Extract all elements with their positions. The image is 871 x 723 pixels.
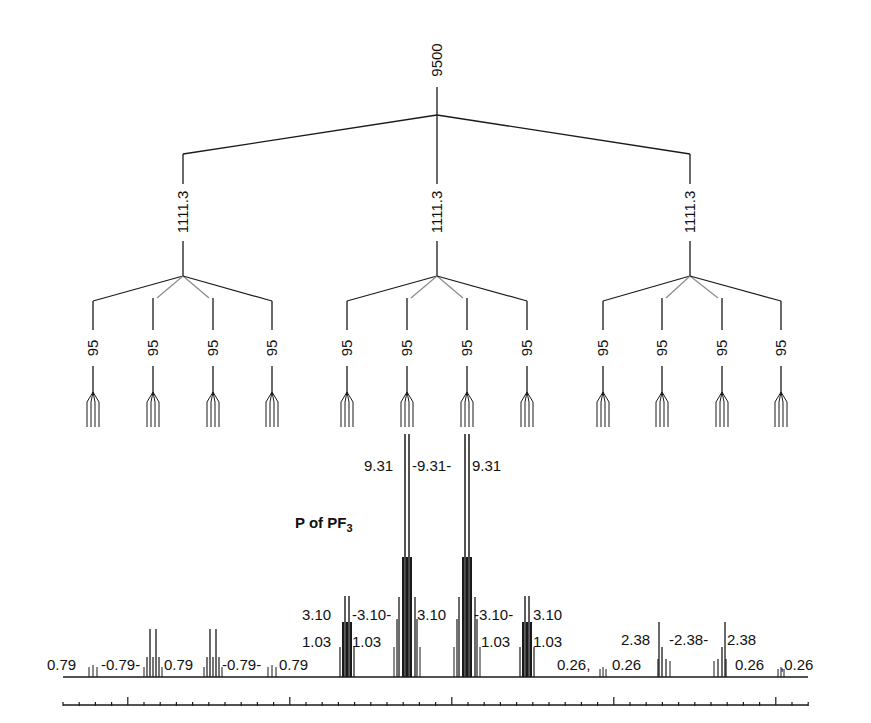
tree-line — [347, 276, 437, 301]
coupling-label-95: 95 — [713, 340, 730, 357]
coupling-value-label: -9.31- — [412, 458, 451, 473]
coupling-value-label: 1.03 — [533, 634, 562, 649]
coupling-value-label: -3.10- — [474, 607, 513, 622]
coupling-value-label: 0.26 — [735, 657, 764, 672]
coupling-value-label: -0.79- — [222, 657, 261, 672]
coupling-value-label: -2.38- — [669, 632, 708, 647]
diagram-title: P of PF3 — [295, 514, 353, 534]
coupling-value-label: 0.79 — [164, 657, 193, 672]
tree-line — [183, 115, 437, 154]
tree-line — [690, 276, 781, 301]
coupling-label-95: 95 — [263, 340, 280, 357]
coupling-label-1111: 1111.3 — [681, 191, 698, 234]
coupling-label-95: 95 — [398, 340, 415, 357]
coupling-label-95: 95 — [458, 340, 475, 357]
coupling-value-label: 0.79 — [279, 657, 308, 672]
coupling-value-label: -3.10- — [352, 607, 391, 622]
coupling-value-label: 3.10 — [417, 607, 446, 622]
coupling-label-9500: 9500 — [428, 43, 445, 76]
coupling-label-95: 95 — [84, 340, 101, 357]
coupling-label-95: 95 — [518, 340, 535, 357]
tree-line — [183, 276, 272, 301]
coupling-value-label: 9.31 — [364, 458, 393, 473]
nmr-splitting-diagram: 95001111.3959595951111.3959595951111.395… — [0, 0, 871, 723]
tree-line — [437, 115, 690, 154]
coupling-label-95: 95 — [653, 340, 670, 357]
coupling-label-95: 95 — [144, 340, 161, 357]
coupling-value-label: 9.31 — [472, 458, 501, 473]
coupling-label-1111: 1111.3 — [174, 191, 191, 234]
tree-line — [437, 276, 527, 301]
coupling-value-label: 1.03 — [302, 634, 331, 649]
coupling-label-95: 95 — [772, 340, 789, 357]
coupling-value-label: ,0.26 — [780, 657, 813, 672]
coupling-value-label: 1.03 — [481, 634, 510, 649]
coupling-value-label: 3.10 — [533, 607, 562, 622]
coupling-value-label: 0.26 — [612, 657, 641, 672]
tree-line — [93, 276, 183, 301]
coupling-value-label: 3.10 — [302, 607, 331, 622]
coupling-value-label: 2.38 — [727, 632, 756, 647]
coupling-value-label: 0.79 — [47, 657, 76, 672]
coupling-value-label: 1.03 — [352, 634, 381, 649]
coupling-value-label: 2.38 — [621, 632, 650, 647]
coupling-label-95: 95 — [204, 340, 221, 357]
coupling-label-1111: 1111.3 — [428, 191, 445, 234]
coupling-label-95: 95 — [594, 340, 611, 357]
coupling-value-label: 0.26, — [557, 657, 590, 672]
title-subscript: 3 — [346, 522, 352, 534]
title-text: P of PF — [295, 514, 346, 531]
coupling-label-95: 95 — [338, 340, 355, 357]
coupling-value-label: -0.79- — [101, 657, 140, 672]
